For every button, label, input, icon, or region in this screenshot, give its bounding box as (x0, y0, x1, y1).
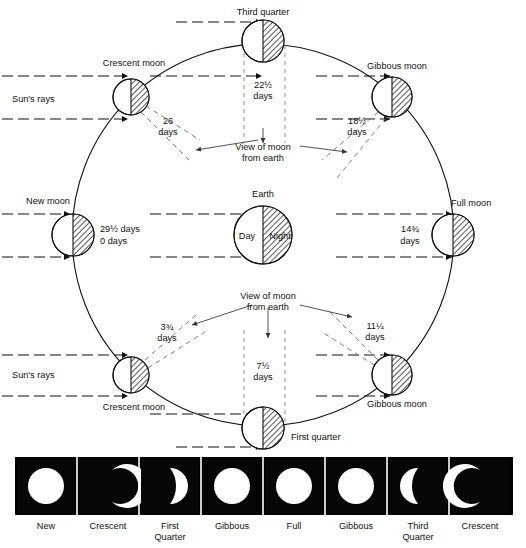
view-note-upper-line2: from earth (242, 153, 284, 163)
caption-third-quarter-line1: Third (408, 521, 429, 531)
label-full-moon: Full moon (451, 198, 491, 208)
leader-line (300, 305, 352, 317)
label-suns-rays-upper: Sun's rays (12, 94, 55, 104)
days-crescent-upper-line2: days (158, 127, 178, 137)
days-crescent-lower-line1: 3¾ (161, 322, 174, 332)
caption-full-line1: Full (287, 521, 302, 531)
label-crescent-upper: Crescent moon (103, 58, 165, 68)
days-full-moon-line1: 14¾ (401, 224, 419, 234)
caption-first-quarter-line1: First (161, 521, 179, 531)
days-third-quarter-line2: days (253, 91, 273, 101)
strip-panel-first-quarter[interactable] (141, 459, 199, 513)
label-new-moon: New moon (26, 196, 70, 206)
moon-gibbous-upper[interactable] (372, 77, 412, 117)
days-gibbous-lower-line2: days (365, 332, 385, 342)
view-note-lower-line1: View of moon (240, 291, 296, 301)
strip-panel-gibbous-2[interactable] (327, 459, 385, 513)
label-earth-day: Day (239, 231, 256, 241)
moon-crescent-lower[interactable] (113, 357, 149, 393)
caption-crescent-1-line1: Crescent (90, 521, 127, 531)
caption-crescent-2-line1: Crescent (462, 521, 499, 531)
days-new-moon-line2: 0 days (100, 236, 127, 246)
leader-line (192, 305, 252, 325)
days-gibbous-lower-line1: 11¼ (366, 321, 384, 331)
days-gibbous-upper-line2: days (347, 127, 367, 137)
moon-phase-diagram: Third quarter 22½ days Crescent moon 26 … (0, 0, 526, 548)
days-third-quarter-line1: 22½ (254, 80, 272, 90)
leader-line (300, 146, 347, 152)
strip-panel-new[interactable] (17, 459, 75, 513)
days-new-moon-line1: 29½ days (100, 224, 140, 234)
label-third-quarter: Third quarter (237, 7, 290, 17)
label-earth: Earth (252, 189, 274, 199)
strip-panel-gibbous-1[interactable] (203, 459, 261, 513)
caption-new-line1: New (37, 521, 56, 531)
moon-first-quarter[interactable] (242, 407, 284, 449)
moon-gibbous-lower[interactable] (372, 355, 412, 395)
caption-gibbous-2-line1: Gibbous (339, 521, 374, 531)
moon-crescent-upper[interactable] (113, 79, 149, 115)
label-suns-rays-lower: Sun's rays (12, 370, 55, 380)
moon-full-moon[interactable] (432, 214, 474, 256)
moon-photo-strip (15, 457, 513, 515)
strip-captions: New Crescent First Quarter Gibbous Full … (37, 521, 499, 542)
days-gibbous-upper-line1: 18½ (348, 116, 366, 126)
days-crescent-upper-line1: 26 (163, 116, 173, 126)
caption-third-quarter-line2: Quarter (402, 532, 433, 542)
label-earth-night: Night (269, 231, 291, 241)
view-note-lower-line2: from earth (247, 302, 289, 312)
view-note-upper-line1: View of moon (235, 142, 291, 152)
caption-gibbous-1-line1: Gibbous (215, 521, 250, 531)
moon-phases-figure: Third quarter 22½ days Crescent moon 26 … (0, 0, 526, 548)
days-first-quarter-line1: 7½ (257, 361, 270, 371)
strip-panel-third-quarter[interactable] (389, 459, 447, 513)
days-first-quarter-line2: days (253, 372, 273, 382)
moon-third-quarter[interactable] (242, 20, 284, 62)
label-gibbous-lower: Gibbous moon (367, 399, 427, 409)
label-first-quarter: First quarter (291, 432, 341, 442)
strip-panel-full[interactable] (265, 459, 323, 513)
moon-new-moon[interactable] (52, 214, 94, 256)
strip-panel-crescent-2[interactable] (443, 459, 509, 513)
label-gibbous-upper: Gibbous moon (367, 61, 427, 71)
days-crescent-lower-line2: days (157, 333, 177, 343)
label-crescent-lower: Crescent moon (103, 402, 165, 412)
days-full-moon-line2: days (400, 236, 420, 246)
caption-first-quarter-line2: Quarter (154, 532, 185, 542)
